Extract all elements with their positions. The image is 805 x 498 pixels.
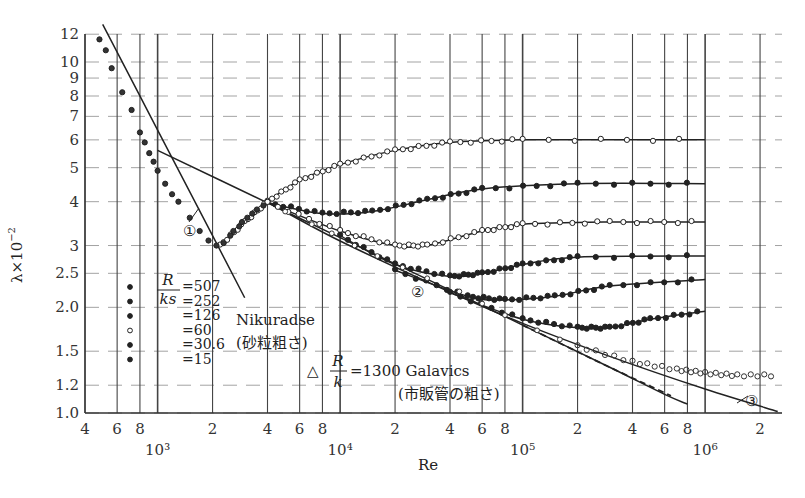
- legend-marker: [128, 328, 133, 333]
- x-tick-label: 8: [500, 420, 510, 438]
- data-marker: [97, 37, 102, 42]
- data-marker: [551, 258, 556, 263]
- data-marker: [447, 289, 452, 294]
- data-marker: [613, 324, 618, 329]
- data-marker: [575, 254, 580, 259]
- data-marker: [510, 312, 515, 317]
- data-marker: [545, 293, 550, 298]
- annotation-label: (市販管の粗さ): [398, 385, 500, 403]
- data-marker: [695, 309, 700, 314]
- data-marker: [464, 234, 469, 239]
- data-marker: [679, 312, 684, 317]
- data-marker: [400, 147, 405, 152]
- data-marker: [630, 320, 635, 325]
- data-marker: [472, 187, 477, 192]
- data-marker: [559, 258, 564, 263]
- y-tick-label: 7: [69, 107, 79, 125]
- data-marker: [544, 319, 549, 324]
- data-marker: [197, 228, 202, 233]
- data-marker: [432, 196, 437, 201]
- data-marker: [607, 282, 612, 287]
- x-tick-label: 2: [208, 420, 218, 438]
- data-marker: [440, 240, 445, 245]
- data-marker: [538, 296, 543, 301]
- data-marker: [425, 276, 430, 281]
- data-marker: [424, 269, 429, 274]
- data-marker: [684, 253, 689, 258]
- data-marker: [377, 240, 382, 245]
- data-marker: [312, 208, 317, 213]
- data-marker: [499, 139, 504, 144]
- data-marker: [575, 180, 580, 185]
- data-marker: [447, 139, 452, 144]
- data-marker: [755, 374, 760, 379]
- data-marker: [425, 196, 430, 201]
- data-marker: [306, 216, 311, 221]
- data-marker: [557, 337, 562, 342]
- data-marker: [345, 160, 350, 165]
- data-marker: [593, 181, 598, 186]
- data-marker: [624, 137, 629, 142]
- data-marker: [338, 161, 343, 166]
- data-marker: [392, 147, 397, 152]
- data-marker: [392, 261, 397, 266]
- data-marker: [671, 312, 676, 317]
- data-marker: [502, 296, 507, 301]
- data-marker: [424, 143, 429, 148]
- data-marker: [369, 250, 374, 255]
- data-marker: [520, 183, 525, 188]
- data-marker: [361, 155, 366, 160]
- data-marker: [345, 237, 350, 242]
- data-marker: [309, 222, 314, 227]
- data-marker: [385, 257, 390, 262]
- data-marker: [735, 372, 740, 377]
- data-marker: [662, 219, 667, 224]
- data-marker: [621, 219, 626, 224]
- x-tick-label: 4: [80, 420, 90, 438]
- x-tick-label: 2: [573, 420, 583, 438]
- data-marker: [274, 194, 279, 199]
- legend-marker: [128, 357, 133, 362]
- data-marker: [137, 130, 142, 135]
- data-marker: [493, 186, 498, 191]
- y-tick-label: 5: [69, 159, 79, 177]
- annotation-label: ②: [411, 283, 424, 301]
- data-marker: [468, 140, 473, 145]
- y-tick-label: 2.5: [55, 264, 79, 282]
- data-marker: [684, 180, 689, 185]
- data-marker: [385, 149, 390, 154]
- data-marker: [531, 295, 536, 300]
- data-marker: [228, 233, 233, 238]
- annotation-label: (砂粒粗さ): [236, 334, 308, 352]
- x-tick-label: 8: [683, 420, 693, 438]
- data-marker: [392, 267, 397, 272]
- data-marker: [468, 299, 473, 304]
- x-tick-label: 6: [660, 420, 670, 438]
- data-marker: [748, 372, 753, 377]
- data-marker: [288, 185, 293, 190]
- data-marker: [675, 280, 680, 285]
- data-marker: [155, 168, 160, 173]
- data-marker: [509, 297, 514, 302]
- data-marker: [363, 208, 368, 213]
- data-marker: [457, 289, 462, 294]
- data-marker: [514, 222, 519, 227]
- data-marker: [528, 261, 533, 266]
- data-marker: [456, 235, 461, 240]
- x-decade-label: 10⁵: [510, 441, 535, 459]
- data-marker: [329, 231, 334, 236]
- data-marker: [630, 180, 635, 185]
- data-marker: [514, 262, 519, 267]
- annotation-label: ③: [745, 392, 758, 410]
- data-marker: [652, 364, 657, 369]
- y-tick-label: 10: [60, 53, 79, 71]
- data-marker: [524, 295, 529, 300]
- curve-line: [268, 203, 706, 248]
- x-tick-label: 6: [477, 420, 487, 438]
- data-marker: [497, 224, 502, 229]
- data-marker: [497, 266, 502, 271]
- data-marker: [611, 182, 616, 187]
- data-marker: [254, 207, 259, 212]
- data-marker: [645, 361, 650, 366]
- data-marker: [332, 163, 337, 168]
